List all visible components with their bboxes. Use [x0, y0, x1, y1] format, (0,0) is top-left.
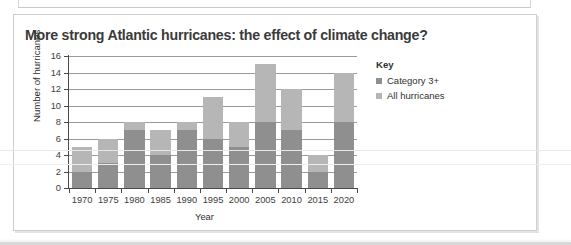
screenshot-page: More strong Atlantic hurricanes: the eff…: [0, 0, 571, 245]
x-axis-tick-label: 2020: [334, 195, 355, 205]
x-axis-tick: [226, 188, 227, 193]
bar-segment-category-3-plus[interactable]: [308, 172, 328, 189]
x-axis-tick-label: 1975: [98, 195, 119, 205]
x-axis-tick-label: 1970: [72, 195, 93, 205]
y-axis-tick-label: 8: [56, 117, 61, 127]
key-item-category-3-plus: Category 3+: [376, 75, 526, 86]
bar-group[interactable]: 1990: [177, 56, 197, 188]
x-axis-tick-label: 2000: [229, 195, 250, 205]
x-axis-tick: [278, 188, 279, 193]
key-item-all-hurricanes: All hurricanes: [376, 90, 526, 101]
x-axis-tick-label: 1980: [124, 195, 145, 205]
x-axis-tick: [148, 188, 149, 193]
bar-group[interactable]: 2020: [334, 56, 354, 188]
y-axis-title: Number of hurricanes: [31, 30, 42, 122]
bar-group[interactable]: 1970: [72, 56, 92, 188]
y-axis-tick-label: 6: [56, 134, 61, 144]
bar-group[interactable]: 2010: [281, 56, 301, 188]
chart-figure-container: More strong Atlantic hurricanes: the eff…: [13, 14, 537, 231]
chart-title: More strong Atlantic hurricanes: the eff…: [25, 27, 428, 43]
key-item-label: Category 3+: [387, 75, 439, 86]
previous-box-edge: [18, 0, 531, 8]
bar-group[interactable]: 1995: [203, 56, 223, 188]
scan-artifact-line-secondary: [0, 164, 571, 165]
x-axis-tick: [305, 188, 306, 193]
x-axis-tick-label: 2015: [307, 195, 328, 205]
plot-area: 0246810121416 19701975198019851990199520…: [69, 56, 357, 188]
x-axis-tick: [252, 188, 253, 193]
bar-group[interactable]: 1980: [124, 56, 144, 188]
x-axis-tick: [121, 188, 122, 193]
bar-segment-category-3-plus[interactable]: [150, 155, 170, 188]
chart-key: Key Category 3+ All hurricanes: [376, 59, 526, 105]
bars-group: 1970197519801985199019952000200520102015…: [69, 56, 357, 188]
x-axis-line: [68, 188, 358, 189]
x-axis-tick: [95, 188, 96, 193]
y-axis-tick-label: 0: [56, 183, 61, 193]
bar-segment-category-3-plus[interactable]: [334, 122, 354, 188]
bar-segment-category-3-plus[interactable]: [72, 172, 92, 189]
bar-group[interactable]: 2015: [308, 56, 328, 188]
y-axis-tick-label: 14: [51, 68, 61, 78]
bar-segment-category-3-plus[interactable]: [255, 122, 275, 188]
y-axis-tick-label: 10: [51, 101, 61, 111]
x-axis-tick-label: 2005: [255, 195, 276, 205]
x-axis-tick: [200, 188, 201, 193]
x-axis-tick-label: 1985: [150, 195, 171, 205]
y-axis-tick-label: 2: [56, 167, 61, 177]
key-swatch-icon: [376, 93, 382, 99]
bar-group[interactable]: 1985: [150, 56, 170, 188]
y-axis-tick-label: 4: [56, 150, 61, 160]
x-axis-tick-label: 1990: [176, 195, 197, 205]
bar-segment-category-3-plus[interactable]: [177, 130, 197, 188]
bar-segment-category-3-plus[interactable]: [281, 130, 301, 188]
y-axis-tick-label: 12: [51, 84, 61, 94]
x-axis-tick-label: 1995: [203, 195, 224, 205]
bar-segment-category-3-plus[interactable]: [124, 130, 144, 188]
key-title: Key: [376, 59, 526, 70]
x-axis-tick: [69, 188, 70, 193]
key-item-label: All hurricanes: [387, 90, 445, 101]
x-axis-tick: [357, 188, 358, 193]
key-swatch-icon: [376, 78, 382, 84]
bar-group[interactable]: 2005: [255, 56, 275, 188]
bar-segment-category-3-plus[interactable]: [229, 147, 249, 188]
bar-group[interactable]: 1975: [98, 56, 118, 188]
x-axis-title: Year: [195, 211, 214, 222]
bar-segment-category-3-plus[interactable]: [98, 163, 118, 188]
bar-group[interactable]: 2000: [229, 56, 249, 188]
x-axis-tick-label: 2010: [281, 195, 302, 205]
x-axis-tick: [174, 188, 175, 193]
scan-artifact-line: [0, 150, 571, 151]
x-axis-tick: [331, 188, 332, 193]
y-axis-tick-label: 16: [51, 51, 61, 61]
